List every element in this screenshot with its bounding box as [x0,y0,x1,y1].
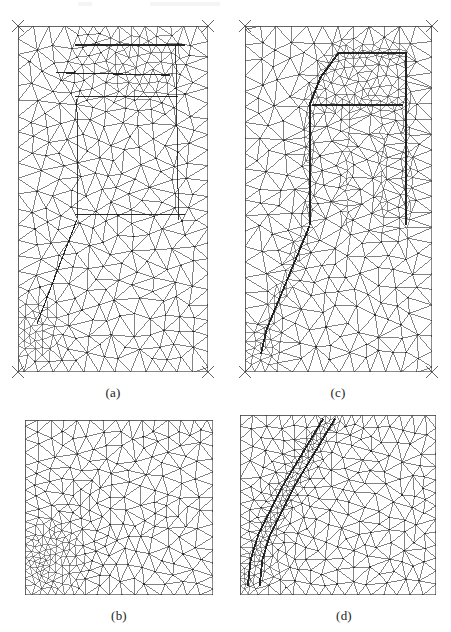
scan-artifact-top-left [78,2,92,6]
caption-c: (c) [324,386,352,400]
mesh-panel-d [240,415,436,595]
mesh-panel-b [25,420,213,595]
scan-artifact-top-right [150,2,220,6]
caption-b: (b) [105,609,133,623]
mesh-panel-c [245,26,432,372]
caption-a: (a) [99,386,127,400]
mesh-panel-a [18,26,208,372]
caption-d: (d) [330,609,358,623]
figure-root: (a)(c)(b)(d) [0,0,451,632]
